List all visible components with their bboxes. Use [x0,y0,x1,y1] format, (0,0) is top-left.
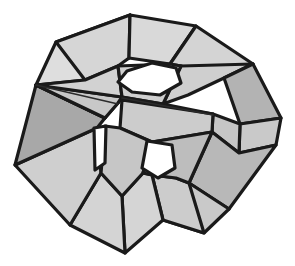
hole-left-sliver-hole [94,126,106,170]
hole-lower-central-hole [142,141,175,178]
polyhedron-figure [0,0,295,266]
